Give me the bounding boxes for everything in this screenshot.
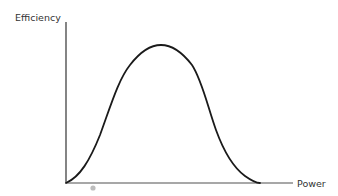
- y-axis-label: Efficiency: [15, 12, 61, 23]
- efficiency-curve: [66, 45, 260, 183]
- origin-marker: [90, 185, 95, 190]
- x-axis-label: Power: [297, 178, 326, 189]
- efficiency-power-chart: Efficiency Power: [0, 0, 338, 196]
